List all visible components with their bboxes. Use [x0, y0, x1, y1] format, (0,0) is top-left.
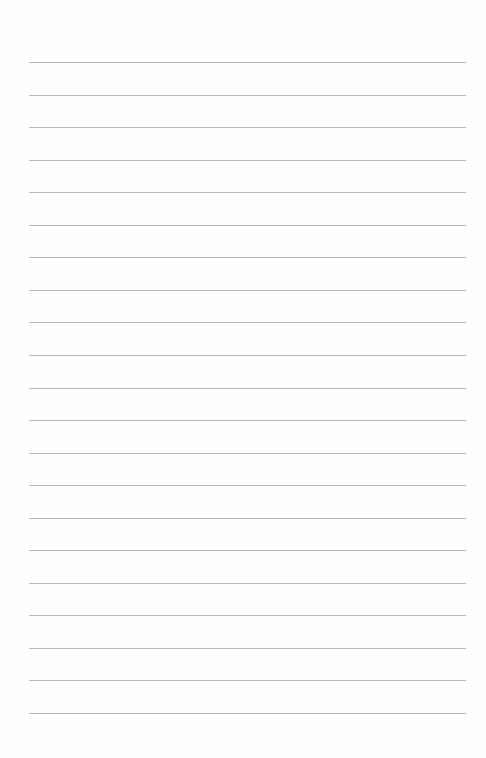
- ruled-line: [29, 127, 466, 128]
- ruled-line: [29, 290, 466, 291]
- ruled-line: [29, 62, 466, 63]
- ruled-line: [29, 225, 466, 226]
- ruled-line: [29, 518, 466, 519]
- ruled-line: [29, 322, 466, 323]
- ruled-line: [29, 388, 466, 389]
- ruled-line: [29, 95, 466, 96]
- ruled-line: [29, 160, 466, 161]
- lined-paper-page: [0, 0, 486, 758]
- ruled-line: [29, 420, 466, 421]
- ruled-line: [29, 648, 466, 649]
- ruled-line: [29, 355, 466, 356]
- ruled-line: [29, 453, 466, 454]
- ruled-line: [29, 550, 466, 551]
- ruled-line: [29, 192, 466, 193]
- ruled-line: [29, 713, 466, 714]
- ruled-line: [29, 257, 466, 258]
- ruled-line: [29, 485, 466, 486]
- ruled-line: [29, 583, 466, 584]
- ruled-line: [29, 680, 466, 681]
- ruled-line: [29, 615, 466, 616]
